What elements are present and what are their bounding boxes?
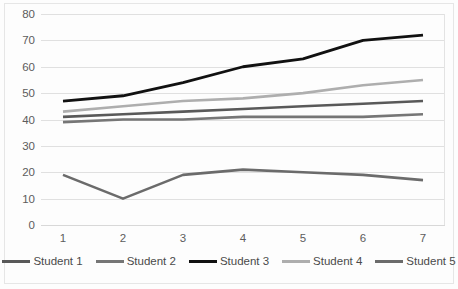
series-line	[63, 35, 423, 101]
gridline-0	[41, 225, 445, 226]
legend-item[interactable]: Student 4	[282, 255, 362, 267]
legend-swatch-icon	[375, 260, 403, 263]
x-axis-tick-label: 5	[283, 232, 323, 244]
x-axis-tick-label: 4	[223, 232, 263, 244]
legend-swatch-icon	[282, 260, 310, 263]
legend-item[interactable]: Student 3	[189, 255, 269, 267]
legend-item-label: Student 2	[127, 255, 176, 267]
y-axis-tick-label: 30	[5, 140, 35, 152]
legend-item[interactable]: Student 2	[96, 255, 176, 267]
x-axis-tick-label: 6	[343, 232, 383, 244]
plot-area	[41, 14, 445, 225]
y-axis-tick-label: 70	[5, 34, 35, 46]
series-line	[63, 170, 423, 199]
x-axis-tick-label: 7	[403, 232, 443, 244]
chart-legend: Student 1Student 2Student 3Student 4Stud…	[0, 255, 458, 267]
y-axis-tick-label: 40	[5, 114, 35, 126]
y-axis-tick-label: 10	[5, 193, 35, 205]
legend-item-label: Student 4	[313, 255, 362, 267]
legend-swatch-icon	[189, 260, 217, 263]
legend-swatch-icon	[2, 260, 30, 263]
line-chart: 80706050403020100 1234567 Student 1Stude…	[0, 0, 458, 289]
y-axis-tick-label: 50	[5, 87, 35, 99]
legend-swatch-icon	[96, 260, 124, 263]
x-axis-tick-label: 2	[103, 232, 143, 244]
x-axis-tick-label: 1	[43, 232, 83, 244]
y-axis-tick-label: 0	[5, 219, 35, 231]
series-line	[63, 101, 423, 117]
legend-item-label: Student 1	[33, 255, 82, 267]
y-axis-tick-label: 80	[5, 8, 35, 20]
y-axis-tick-label: 60	[5, 61, 35, 73]
legend-item[interactable]: Student 1	[2, 255, 82, 267]
legend-item-label: Student 3	[220, 255, 269, 267]
y-axis-tick-label: 20	[5, 166, 35, 178]
legend-item-label: Student 5	[406, 255, 455, 267]
x-axis-tick-label: 3	[163, 232, 203, 244]
legend-item[interactable]: Student 5	[375, 255, 455, 267]
series-lines	[41, 14, 445, 225]
